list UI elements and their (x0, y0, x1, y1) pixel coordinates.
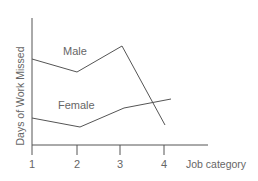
series-male-line (32, 46, 165, 125)
x-axis-label: Job category (186, 158, 247, 170)
series-label-male: Male (63, 45, 87, 57)
x-tick-label-4: 4 (161, 158, 167, 170)
x-tick-label-2: 2 (74, 158, 80, 170)
series-label-female: Female (58, 99, 95, 111)
line-chart: Male Female 1 2 3 4 Job category Days of… (0, 0, 258, 181)
series-female-line (32, 99, 171, 127)
x-tick-label-1: 1 (29, 158, 35, 170)
x-tick-label-3: 3 (117, 158, 123, 170)
y-axis-label: Days of Work Missed (14, 46, 26, 145)
